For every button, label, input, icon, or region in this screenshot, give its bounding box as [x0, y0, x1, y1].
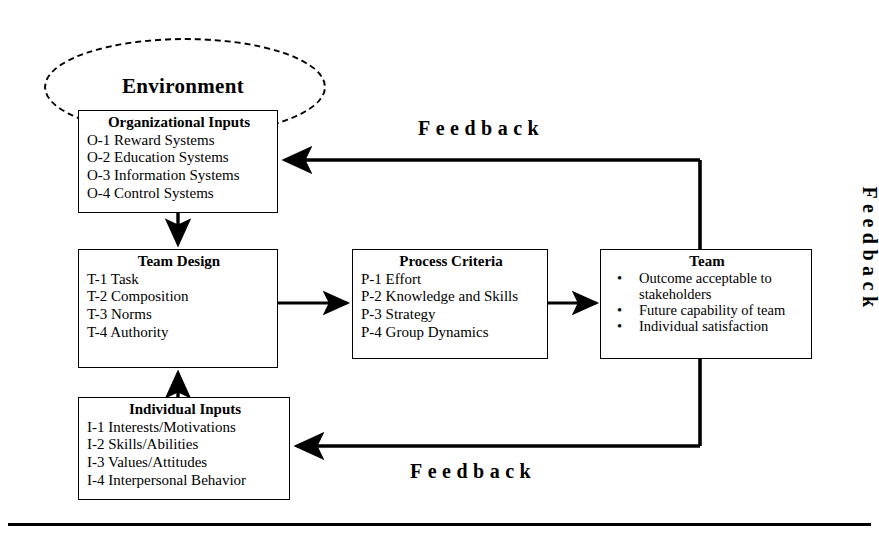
environment-label: Environment [44, 74, 322, 99]
node-line-i1: I-1 Interests/Motivations [87, 419, 283, 437]
team-bullet-3: • Individual satisfaction [609, 319, 805, 335]
node-title-process-criteria: Process Criteria [361, 253, 541, 270]
node-line-p1: P-1 Effort [361, 271, 541, 289]
node-line-i4: I-4 Interpersonal Behavior [87, 472, 283, 490]
node-line-p2: P-2 Knowledge and Skills [361, 288, 541, 306]
node-process-criteria: Process Criteria P-1 Effort P-2 Knowledg… [352, 249, 548, 359]
node-line-o1: O-1 Reward Systems [87, 132, 271, 150]
node-line-o4: O-4 Control Systems [87, 185, 271, 203]
bottom-rule-divider [8, 523, 871, 526]
node-line-t4: T-4 Authority [87, 324, 271, 342]
node-line-t2: T-2 Composition [87, 288, 271, 306]
feedback-label-top: Feedback [418, 117, 544, 140]
node-title-organizational-inputs: Organizational Inputs [87, 114, 271, 131]
node-line-o2: O-2 Education Systems [87, 149, 271, 167]
team-outcome-list: • Outcome acceptable to stakeholders • F… [609, 271, 805, 335]
team-bullet-3-label: Individual satisfaction [639, 318, 768, 334]
node-organizational-inputs: Organizational Inputs O-1 Reward Systems… [78, 110, 278, 213]
node-line-p4: P-4 Group Dynamics [361, 324, 541, 342]
node-individual-inputs: Individual Inputs I-1 Interests/Motivati… [78, 397, 290, 500]
node-line-t1: T-1 Task [87, 271, 271, 289]
node-title-individual-inputs: Individual Inputs [87, 401, 283, 418]
feedback-label-right: Feedback [858, 170, 879, 330]
diagram-root: Environment [0, 0, 879, 533]
node-line-o3: O-3 Information Systems [87, 167, 271, 185]
node-line-i2: I-2 Skills/Abilities [87, 436, 283, 454]
team-bullet-1: • Outcome acceptable to stakeholders [609, 271, 805, 303]
team-bullet-1-label: Outcome acceptable to stakeholders [639, 270, 772, 302]
team-bullet-2-label: Future capability of team [639, 302, 785, 318]
bullet-dot-icon: • [617, 319, 622, 335]
bullet-dot-icon: • [617, 271, 622, 287]
node-line-t3: T-3 Norms [87, 306, 271, 324]
node-title-team: Team [609, 253, 805, 270]
node-line-i3: I-3 Values/Attitudes [87, 454, 283, 472]
node-team: Team • Outcome acceptable to stakeholder… [600, 249, 812, 359]
node-title-team-design: Team Design [87, 253, 271, 270]
feedback-label-bottom: Feedback [410, 460, 536, 483]
node-line-p3: P-3 Strategy [361, 306, 541, 324]
team-bullet-2: • Future capability of team [609, 303, 805, 319]
bullet-dot-icon: • [617, 303, 622, 319]
node-team-design: Team Design T-1 Task T-2 Composition T-3… [78, 249, 278, 368]
